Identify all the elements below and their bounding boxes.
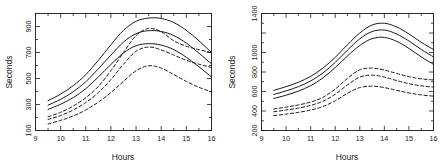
chart-panel-left: 910111213141516 100300500700900 Hours Se…	[0, 0, 221, 167]
svg-text:13: 13	[132, 134, 140, 143]
right-x-axis-label: Hours	[336, 152, 359, 162]
svg-text:600: 600	[250, 86, 259, 98]
svg-text:13: 13	[356, 134, 364, 143]
curve-dashed-upper	[48, 28, 211, 117]
curve-dashed-lower	[274, 86, 434, 116]
svg-text:14: 14	[380, 134, 388, 143]
left-x-axis-label: Hours	[112, 152, 135, 162]
right-curves	[274, 23, 434, 116]
svg-text:800: 800	[250, 66, 259, 78]
svg-text:12: 12	[331, 134, 339, 143]
svg-text:15: 15	[405, 134, 413, 143]
curve-solid-lower	[274, 37, 434, 98]
left-x-tick-labels: 910111213141516	[34, 134, 216, 143]
right-y-tick-labels: 20040060080010001400	[250, 6, 259, 137]
right-x-tick-labels: 910111213141516	[260, 134, 438, 143]
svg-text:1400: 1400	[250, 6, 259, 22]
svg-text:15: 15	[182, 134, 190, 143]
svg-text:200: 200	[250, 125, 259, 137]
curve-solid-lower	[48, 44, 211, 110]
left-curves	[48, 18, 211, 124]
svg-text:16: 16	[208, 134, 216, 143]
svg-text:16: 16	[430, 134, 438, 143]
svg-text:14: 14	[157, 134, 165, 143]
svg-text:9: 9	[34, 134, 38, 143]
right-axis-ticks	[262, 14, 434, 131]
svg-text:400: 400	[250, 105, 259, 117]
svg-text:700: 700	[24, 47, 33, 59]
svg-text:11: 11	[82, 134, 89, 143]
curve-solid-middle	[48, 31, 211, 106]
svg-text:9: 9	[260, 134, 264, 143]
svg-text:300: 300	[24, 99, 33, 111]
curve-dashed-upper	[274, 68, 434, 109]
svg-text:100: 100	[24, 125, 33, 137]
svg-text:12: 12	[107, 134, 115, 143]
chart-panel-right: 910111213141516 20040060080010001400 Hou…	[221, 0, 442, 167]
right-chart-svg: 910111213141516 20040060080010001400 Hou…	[221, 0, 443, 167]
curve-solid-upper	[48, 18, 211, 101]
svg-text:500: 500	[24, 73, 33, 85]
right-y-axis-label: Seconds	[227, 55, 237, 88]
curve-solid-middle	[274, 30, 434, 94]
svg-text:900: 900	[24, 21, 33, 33]
left-y-tick-labels: 100300500700900	[24, 21, 33, 137]
left-chart-svg: 910111213141516 100300500700900 Hours Se…	[0, 0, 221, 167]
figure-root: 910111213141516 100300500700900 Hours Se…	[0, 0, 443, 167]
svg-text:11: 11	[307, 134, 314, 143]
svg-text:1000: 1000	[250, 45, 259, 61]
svg-text:10: 10	[282, 134, 290, 143]
curve-dashed-lower	[48, 66, 211, 124]
svg-text:10: 10	[57, 134, 65, 143]
right-plot-frame	[262, 14, 434, 131]
left-y-axis-label: Seconds	[4, 55, 14, 88]
